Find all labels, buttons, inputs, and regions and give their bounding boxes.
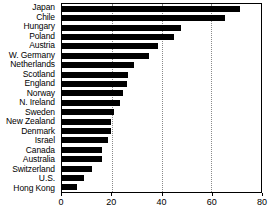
bar-row xyxy=(62,155,261,164)
bar-series xyxy=(62,4,261,192)
bar-row xyxy=(62,107,261,116)
axis-tick-label: 40 xyxy=(156,197,166,208)
bar xyxy=(62,109,114,115)
bar-row xyxy=(62,173,261,182)
axis-tick xyxy=(61,193,62,196)
bar xyxy=(62,90,123,96)
axis-tick xyxy=(162,193,163,196)
axis-tick-label: 80 xyxy=(257,197,267,208)
axis-tick-label: 0 xyxy=(58,197,63,208)
bar xyxy=(62,175,84,181)
bar xyxy=(62,43,158,49)
bar-chart: JapanChileHungaryPolandAustriaW. Germany… xyxy=(0,0,273,223)
bar xyxy=(62,156,102,162)
bar xyxy=(62,128,111,134)
plot-area xyxy=(61,3,262,193)
bar xyxy=(62,53,149,59)
bar-row xyxy=(62,13,261,22)
bar-row xyxy=(62,164,261,173)
axis-tick xyxy=(111,193,112,196)
bar xyxy=(62,137,108,143)
axis-tick xyxy=(212,193,213,196)
bar xyxy=(62,166,92,172)
axis-tick-label: 60 xyxy=(207,197,217,208)
bar-row xyxy=(62,60,261,69)
bar xyxy=(62,34,174,40)
bar-row xyxy=(62,79,261,88)
bar-row xyxy=(62,70,261,79)
bar-row xyxy=(62,42,261,51)
bar xyxy=(62,6,240,12)
bar xyxy=(62,184,77,190)
bar xyxy=(62,25,181,31)
category-axis-labels: JapanChileHungaryPolandAustriaW. Germany… xyxy=(0,3,58,193)
bar-row xyxy=(62,183,261,192)
value-axis: 020406080 xyxy=(61,193,262,223)
bar-row xyxy=(62,126,261,135)
bar xyxy=(62,62,134,68)
bar-row xyxy=(62,4,261,13)
bar xyxy=(62,15,225,21)
bar-row xyxy=(62,117,261,126)
bar xyxy=(62,119,111,125)
bar-row xyxy=(62,136,261,145)
bar xyxy=(62,72,128,78)
category-label: Hong Kong xyxy=(0,184,58,194)
bar-row xyxy=(62,32,261,41)
axis-tick xyxy=(262,193,263,196)
bar-row xyxy=(62,98,261,107)
bar xyxy=(62,81,127,87)
axis-tick-label: 20 xyxy=(106,197,116,208)
bar-row xyxy=(62,89,261,98)
bar-row xyxy=(62,51,261,60)
bar xyxy=(62,100,120,106)
bar xyxy=(62,147,102,153)
bar-row xyxy=(62,145,261,154)
bar-row xyxy=(62,23,261,32)
